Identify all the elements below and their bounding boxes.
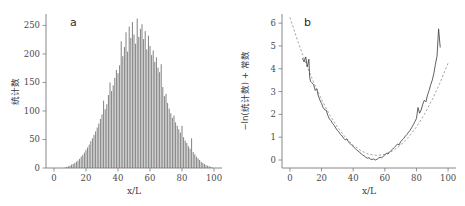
histogram-bar	[140, 29, 141, 168]
y-axis-title: 统计数	[10, 78, 20, 105]
data-curve-line	[303, 29, 441, 160]
histogram-bar	[73, 164, 74, 168]
histogram-bar	[186, 143, 187, 168]
histogram-bar	[111, 91, 112, 168]
histogram-bar	[204, 164, 205, 168]
histogram-bar	[180, 133, 181, 168]
histogram-bar	[209, 166, 210, 168]
panel-a-histogram: 020406080100050100150200250x/L统计数a	[0, 0, 232, 206]
histogram-bar	[68, 166, 69, 168]
histogram-bar	[66, 167, 67, 168]
y-tick-label: 50	[29, 134, 40, 144]
histogram-plot: 020406080100050100150200250x/L统计数a	[0, 0, 232, 206]
histogram-bar	[119, 65, 120, 168]
x-tick-label: 20	[81, 173, 92, 183]
histogram-bar	[76, 162, 77, 168]
histogram-bar	[70, 166, 71, 168]
histogram-bar	[175, 122, 176, 168]
histogram-bar	[188, 146, 189, 168]
x-tick-label: 100	[206, 173, 222, 183]
histogram-bar	[206, 165, 207, 168]
histogram-bar	[202, 163, 203, 168]
histogram-bar	[158, 68, 159, 168]
y-axis-title: −ln(统计数) + 常数	[240, 51, 250, 130]
histogram-bar	[146, 49, 147, 168]
histogram-bar	[145, 31, 146, 168]
histogram-bar	[137, 19, 138, 168]
x-tick-label: 40	[348, 173, 359, 183]
histogram-bar	[170, 113, 171, 168]
histogram-bar	[124, 47, 125, 168]
histogram-bar	[150, 46, 151, 168]
histogram-bar	[118, 73, 119, 168]
y-tick-label: 0	[35, 163, 40, 173]
histogram-bar	[82, 155, 83, 168]
histogram-bar	[182, 126, 183, 168]
log-curve-plot: 0204060801000123456x/L−ln(统计数) + 常数b	[232, 0, 465, 206]
panel-label-b: b	[304, 16, 311, 29]
x-tick-label: 0	[51, 173, 56, 183]
y-tick-label: 4	[271, 64, 276, 74]
histogram-bar	[84, 153, 85, 168]
histogram-bar	[154, 62, 155, 168]
x-tick-label: 60	[379, 173, 390, 183]
histogram-bar	[122, 56, 123, 168]
histogram-bar	[114, 78, 115, 168]
histogram-bar	[105, 109, 106, 168]
x-tick-label: 80	[177, 173, 188, 183]
histogram-bar	[166, 94, 167, 168]
histogram-bar	[183, 137, 184, 168]
histogram-bar	[196, 157, 197, 168]
histogram-bar	[79, 159, 80, 168]
histogram-bar	[161, 64, 162, 168]
histogram-bars	[65, 19, 213, 168]
histogram-bar	[210, 167, 211, 168]
histogram-bar	[178, 129, 179, 168]
histogram-bar	[212, 167, 213, 168]
histogram-bar	[102, 114, 103, 168]
histogram-bar	[81, 157, 82, 168]
histogram-bar	[159, 72, 160, 168]
y-tick-label: 200	[24, 49, 40, 59]
histogram-bar	[94, 135, 95, 168]
histogram-bar	[167, 103, 168, 168]
histogram-bar	[90, 141, 91, 168]
histogram-bar	[164, 96, 165, 168]
y-tick-label: 3	[271, 87, 276, 97]
histogram-bar	[100, 119, 101, 168]
histogram-bar	[98, 124, 99, 168]
y-tick-label: 2	[271, 109, 276, 119]
histogram-bar	[194, 154, 195, 168]
histogram-bar	[185, 141, 186, 168]
histogram-bar	[138, 37, 139, 168]
histogram-bar	[153, 51, 154, 168]
histogram-bar	[130, 38, 131, 168]
panel-b-logplot: 0204060801000123456x/L−ln(统计数) + 常数b	[232, 0, 464, 206]
x-tick-label: 60	[145, 173, 156, 183]
histogram-bar	[162, 87, 163, 168]
histogram-bar	[132, 22, 133, 168]
x-axis-title: x/L	[127, 186, 141, 196]
histogram-bar	[129, 27, 130, 168]
histogram-bar	[148, 36, 149, 168]
histogram-bar	[116, 70, 117, 168]
histogram-bar	[207, 166, 208, 168]
histogram-bar	[156, 57, 157, 168]
histogram-bar	[95, 131, 96, 168]
y-tick-label: 0	[271, 155, 276, 165]
histogram-bar	[198, 158, 199, 168]
y-tick-label: 100	[24, 106, 40, 116]
y-tick-label: 6	[271, 18, 276, 28]
histogram-bar	[110, 82, 111, 168]
histogram-bar	[86, 150, 87, 168]
y-tick-label: 150	[24, 77, 40, 87]
histogram-bar	[191, 138, 192, 168]
histogram-bar	[142, 24, 143, 168]
x-tick-label: 40	[113, 173, 124, 183]
histogram-bar	[169, 109, 170, 168]
histogram-bar	[87, 147, 88, 168]
histogram-bar	[143, 39, 144, 168]
y-tick-label: 1	[271, 132, 276, 142]
histogram-bar	[134, 35, 135, 168]
histogram-bar	[121, 41, 122, 168]
